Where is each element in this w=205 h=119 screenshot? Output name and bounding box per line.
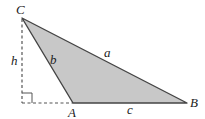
right-angle-marker	[22, 93, 32, 103]
vertex-label-b: B	[190, 95, 198, 110]
side-label-b: b	[50, 52, 57, 67]
side-label-a: a	[104, 45, 111, 60]
vertex-label-c: C	[16, 2, 25, 17]
diagram-canvas: C A B h b a c	[0, 0, 205, 119]
triangle-diagram: C A B h b a c	[0, 0, 205, 119]
side-label-c: c	[127, 102, 133, 117]
vertex-label-a: A	[67, 105, 76, 119]
triangle-abc	[22, 18, 187, 103]
altitude-label-h: h	[11, 53, 18, 68]
